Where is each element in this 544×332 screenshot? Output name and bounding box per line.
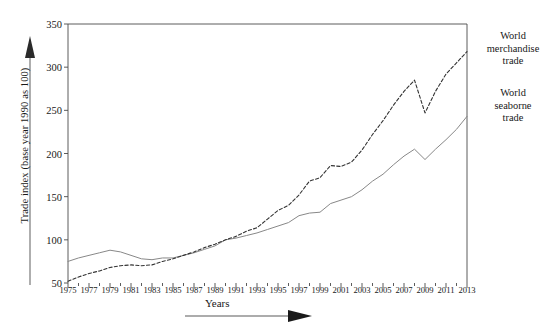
series-label-world-merchandise-trade: Worldmerchandisetrade	[474, 30, 544, 68]
x-axis-tick-label: 1997	[290, 285, 307, 295]
x-axis-tick-label: 1977	[80, 285, 97, 295]
x-axis-tick-label: 2007	[395, 285, 412, 295]
x-axis-tick-label: 1979	[101, 285, 118, 295]
series-label-line: trade	[474, 55, 544, 68]
x-axis-arrow-icon	[185, 310, 312, 322]
x-axis-tick-label: 1993	[248, 285, 265, 295]
series-label-line: merchandise	[474, 43, 544, 56]
series-label-line: World	[474, 30, 544, 43]
x-axis-title: Years	[205, 297, 230, 309]
x-axis-tick-label: 1981	[122, 285, 139, 295]
x-axis-tick-label: 2003	[353, 285, 370, 295]
x-axis-tick-label: 2005	[374, 285, 391, 295]
x-axis-tick-label: 1991	[227, 285, 244, 295]
x-axis-tick-label: 2001	[332, 285, 349, 295]
y-axis-tick-label: 50	[30, 278, 62, 289]
series-label-line: World	[474, 87, 544, 100]
y-axis-tick-label: 150	[30, 191, 62, 202]
series-label-line: trade	[474, 112, 544, 125]
x-axis-tick-label: 2011	[438, 285, 455, 295]
y-axis-ticks	[64, 24, 68, 283]
x-axis-tick-label: 1995	[269, 285, 286, 295]
x-axis-tick-label: 1989	[206, 285, 223, 295]
series-label-world-seaborne-trade: Worldseabornetrade	[474, 87, 544, 125]
x-axis-tick-label: 1987	[185, 285, 202, 295]
series-line-world-seaborne-trade	[68, 116, 467, 261]
series-label-line: seaborne	[474, 100, 544, 113]
y-axis-tick-label: 100	[30, 234, 62, 245]
x-axis-tick-label: 1975	[59, 285, 76, 295]
x-axis-tick-label: 1983	[143, 285, 160, 295]
y-axis-title: Trade index (base year 1990 as 100)	[19, 36, 30, 256]
x-axis-tick-label: 2009	[416, 285, 433, 295]
y-axis-tick-label: 200	[30, 148, 62, 159]
y-axis-tick-label: 300	[30, 62, 62, 73]
x-axis-tick-label: 2013	[458, 285, 475, 295]
y-axis-tick-label: 250	[30, 105, 62, 116]
series-line-world-merchandise-trade	[68, 52, 467, 282]
y-axis-tick-label: 350	[30, 19, 62, 30]
x-axis-tick-label: 1985	[164, 285, 181, 295]
x-axis-tick-label: 1999	[311, 285, 328, 295]
